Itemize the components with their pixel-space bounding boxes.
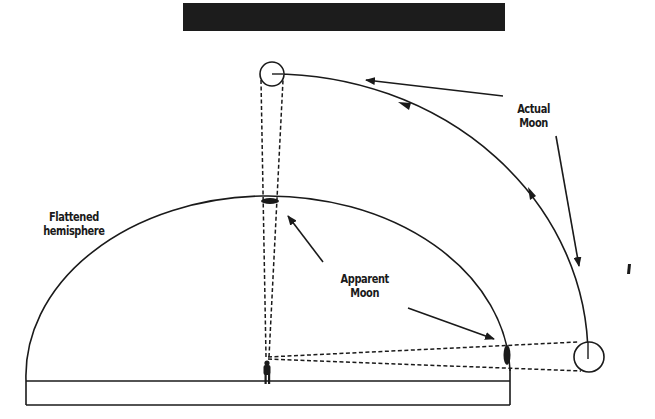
apparent-moon-pointer-arrow-low <box>408 308 494 339</box>
apparent-moon-pointer-arrow-high <box>288 216 323 262</box>
label-apparent-moon-line1: Apparent <box>336 272 393 286</box>
label-apparent-moon-line2: Moon <box>336 286 393 300</box>
label-apparent-moon: Apparent Moon <box>336 272 393 300</box>
actual-moon-horizon-circle <box>574 342 604 372</box>
label-actual-moon-line2: Moon <box>513 116 554 130</box>
label-actual-moon-line1: Actual <box>513 102 554 116</box>
apparent-moon-horizon <box>504 345 511 365</box>
header-bar <box>183 3 505 31</box>
arc-direction-arrow-upper <box>398 102 411 110</box>
label-flattened-hemisphere-line2: hemisphere <box>37 224 111 238</box>
arc-direction-arrow-lower <box>528 187 536 200</box>
label-flattened-hemisphere-line1: Flattened <box>37 210 111 224</box>
label-flattened-hemisphere: Flattened hemisphere <box>37 210 111 238</box>
stray-mark <box>627 264 631 274</box>
label-actual-moon: Actual Moon <box>513 102 554 130</box>
apparent-moon-high <box>261 198 279 204</box>
actual-moon-pointer-arrow-low <box>556 136 579 266</box>
